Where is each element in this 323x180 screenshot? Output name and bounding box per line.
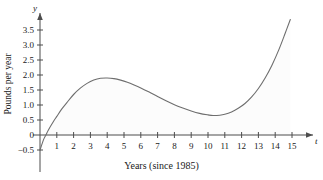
y-tick-label: 1.0 — [0, 101, 34, 110]
y-tick-label: 2.5 — [0, 56, 34, 65]
curve-area-fill — [46, 20, 290, 136]
y-tick-label: 2.0 — [0, 71, 34, 80]
y-tick-label: 0.5 — [0, 116, 34, 125]
y-axis-arrow-icon — [37, 13, 43, 20]
x-axis-arrow-icon — [306, 132, 313, 138]
y-tick-label: 3.5 — [0, 26, 34, 35]
y-tick-label: 1.5 — [0, 86, 34, 95]
x-tick-label: 15 — [280, 142, 304, 151]
y-tick-label: −0.5 — [0, 146, 34, 155]
y-axis-symbol: y — [32, 3, 37, 13]
y-tick-label: 3.0 — [0, 41, 34, 50]
chart-figure: y t Pounds per year 12345678910111213141… — [0, 0, 323, 180]
y-tick-label: 0 — [0, 131, 34, 140]
plot-canvas: y t Pounds per year — [0, 0, 323, 180]
x-axis-title: Years (since 1985) — [0, 160, 323, 171]
x-axis-symbol: t — [315, 136, 318, 146]
